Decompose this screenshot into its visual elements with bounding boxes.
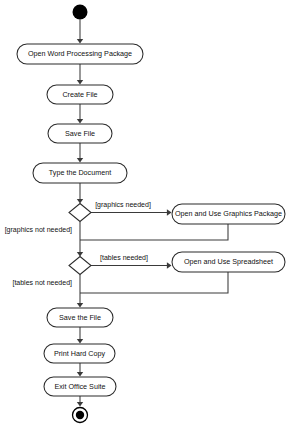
exit-office-suite-label: Exit Office Suite xyxy=(54,382,105,391)
save-file-label: Save File xyxy=(65,129,95,138)
initial-node xyxy=(73,5,88,20)
flow-graphics-no-arrowhead xyxy=(77,252,83,257)
activity-node-open-and-use-graphics-package: Open and Use Graphics Package xyxy=(172,204,285,224)
flow-graphics-merge xyxy=(80,224,228,240)
activity-node-exit-office-suite: Exit Office Suite xyxy=(44,377,116,396)
open-word-processing-package-label: Open Word Processing Package xyxy=(28,49,132,58)
graphics-decision xyxy=(69,204,91,222)
flow-tables-merge xyxy=(80,272,228,293)
save-the-file-label: Save the File xyxy=(59,313,101,322)
activity-node-create-file: Create File xyxy=(47,85,113,104)
flow-tables-no-to-save-the-file-arrowhead xyxy=(77,303,83,308)
guard-label-graphics-needed: [graphics needed] xyxy=(95,201,151,209)
guard-label-tables-not-needed: [tables not needed] xyxy=(12,279,72,287)
flow-type-to-graphics-decision-arrowhead xyxy=(77,199,83,204)
flow-save-the-file-to-print-arrowhead xyxy=(77,339,83,344)
guard-label-graphics-not-needed: [graphics not needed] xyxy=(5,226,72,234)
activity-diagram-canvas: Open Word Processing PackageCreate FileS… xyxy=(0,0,289,432)
type-the-document-label: Type the Document xyxy=(49,168,111,177)
final-node-inner-dot xyxy=(76,411,84,419)
activity-node-type-the-document: Type the Document xyxy=(33,163,127,183)
flow-tables-yes-arrowhead xyxy=(167,262,172,268)
tables-decision xyxy=(69,257,91,275)
open-and-use-graphics-package-label: Open and Use Graphics Package xyxy=(175,209,282,218)
flow-graphics-yes-arrowhead xyxy=(167,209,172,215)
open-and-use-spreadsheet-label: Open and Use Spreadsheet xyxy=(184,257,273,266)
activity-node-open-and-use-spreadsheet: Open and Use Spreadsheet xyxy=(172,252,285,272)
activity-node-save-file: Save File xyxy=(48,124,112,143)
flow-start-to-open-wp-arrowhead xyxy=(77,39,83,44)
flow-exit-to-end-arrowhead xyxy=(77,402,83,407)
flow-save-to-type-arrowhead xyxy=(77,158,83,163)
print-hard-copy-label: Print Hard Copy xyxy=(54,349,106,358)
flow-print-to-exit-arrowhead xyxy=(77,372,83,377)
create-file-label: Create File xyxy=(62,90,97,99)
activity-node-print-hard-copy: Print Hard Copy xyxy=(44,344,115,363)
final-node xyxy=(73,408,88,423)
initial-node-circle xyxy=(73,5,88,20)
activity-nodes-group: Open Word Processing PackageCreate FileS… xyxy=(17,44,285,396)
activity-node-save-the-file: Save the File xyxy=(47,308,113,327)
activity-node-open-word-processing-package: Open Word Processing Package xyxy=(17,44,143,64)
flow-open-wp-to-create-arrowhead xyxy=(77,80,83,85)
flow-create-to-save-arrowhead xyxy=(77,119,83,124)
guard-label-tables-needed: [tables needed] xyxy=(100,254,148,262)
